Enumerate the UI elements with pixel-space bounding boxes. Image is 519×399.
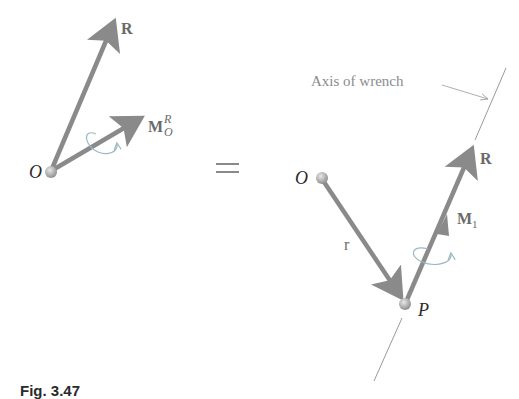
equals-sign — [216, 163, 239, 173]
left-force-system — [45, 22, 141, 178]
force-label-right: R — [480, 150, 492, 168]
moment-label-left: M R O — [148, 118, 177, 136]
axis-pointer-arrow — [442, 85, 488, 99]
axis-of-wrench-line — [475, 68, 506, 140]
position-vector-arrow — [322, 179, 401, 297]
force-label-left: R — [121, 20, 133, 38]
moment-label-right: M1 — [457, 210, 478, 230]
position-vector-label: r — [344, 236, 349, 254]
origin-label-right: O — [295, 168, 308, 189]
axis-of-wrench-line-lower — [374, 318, 402, 381]
origin-point — [316, 172, 328, 184]
moment-curl-icon — [413, 248, 451, 265]
origin-label-left: O — [29, 162, 42, 183]
moment-subscript: 1 — [472, 218, 478, 230]
resultant-force-arrow — [51, 22, 114, 171]
point-p-label: P — [418, 300, 429, 321]
moment-symbol: M — [148, 118, 163, 135]
axis-of-wrench-label: Axis of wrench — [311, 73, 403, 90]
moment-symbol: M — [457, 210, 472, 227]
moment-subscript: O — [164, 125, 173, 140]
origin-point — [45, 166, 57, 178]
point-p — [399, 298, 411, 310]
figure-caption: Fig. 3.47 — [20, 382, 80, 399]
